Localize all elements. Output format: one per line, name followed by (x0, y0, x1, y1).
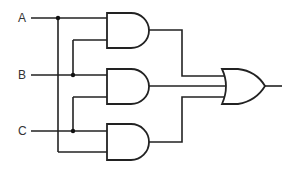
input-label-b: B (18, 68, 26, 82)
junction-dot (71, 73, 75, 77)
input-label-c: C (18, 124, 27, 138)
input-label-a: A (18, 11, 26, 25)
junction-dot (56, 16, 60, 20)
and-gate-2 (107, 69, 149, 104)
and-gate-3 (107, 124, 149, 160)
or-gate (222, 69, 265, 104)
and-gate-1 (107, 13, 149, 48)
and-output-wires (149, 30, 226, 142)
logic-circuit-diagram: A B C (0, 0, 293, 169)
input-wire-b (31, 40, 107, 77)
junction-dot (71, 129, 75, 133)
input-wire-c (31, 97, 107, 133)
